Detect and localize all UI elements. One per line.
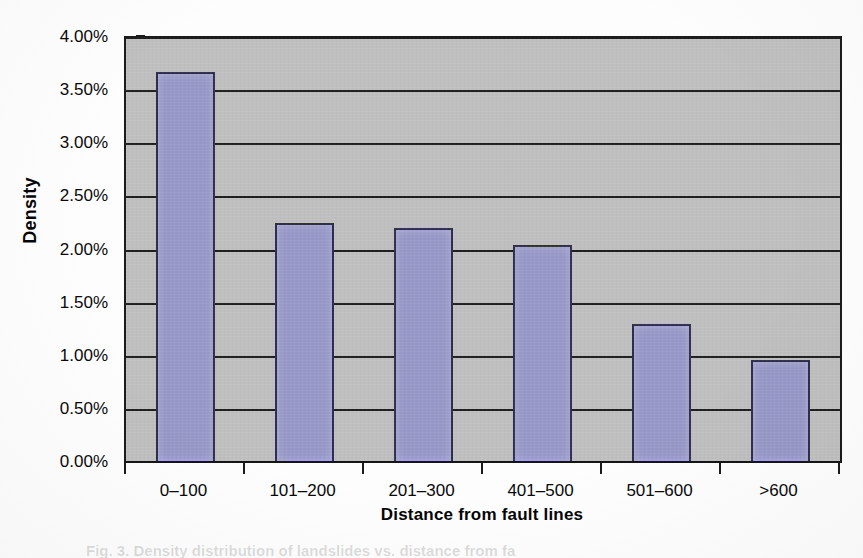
plot-area xyxy=(124,36,842,463)
y-tick-label: 2.00% xyxy=(22,240,108,257)
bars-group xyxy=(126,38,840,463)
x-tick-label: >600 xyxy=(759,481,797,501)
page-caption: Fig. 3. Density distribution of landslid… xyxy=(86,543,516,558)
bar xyxy=(632,324,692,463)
y-tick-label: 2.50% xyxy=(22,187,108,204)
x-tick-label: 101–200 xyxy=(269,481,335,501)
x-tick-label: 0–100 xyxy=(160,481,207,501)
x-tick-mark xyxy=(124,463,126,474)
x-tick-mark xyxy=(838,463,840,474)
x-tick-mark xyxy=(600,463,602,474)
bar xyxy=(513,245,573,463)
x-tick-label: 201–300 xyxy=(388,481,454,501)
x-tick-label: 501–600 xyxy=(626,481,692,501)
bar xyxy=(751,360,811,463)
y-tick-label: 3.50% xyxy=(22,81,108,98)
x-tick-mark xyxy=(243,463,245,474)
y-tick-label: 3.00% xyxy=(22,134,108,151)
y-tick-label: 1.50% xyxy=(22,293,108,310)
y-axis-tick-labels: 0.00%0.50%1.00%1.50%2.00%2.50%3.00%3.50%… xyxy=(22,36,108,461)
x-tick-label: 401–500 xyxy=(507,481,573,501)
x-tick-mark xyxy=(481,463,483,474)
bar xyxy=(156,72,216,463)
y-tick-label: 0.00% xyxy=(22,453,108,470)
y-tick-label: 1.00% xyxy=(22,346,108,363)
x-tick-mark xyxy=(362,463,364,474)
bar xyxy=(394,228,454,463)
chart-figure: Density 0.00%0.50%1.00%1.50%2.00%2.50%3.… xyxy=(0,0,863,558)
x-tick-mark xyxy=(719,463,721,474)
bar xyxy=(275,223,335,463)
y-tick-label: 0.50% xyxy=(22,399,108,416)
x-axis-title: Distance from fault lines xyxy=(124,505,840,525)
y-tick-label: 4.00% xyxy=(22,28,108,45)
